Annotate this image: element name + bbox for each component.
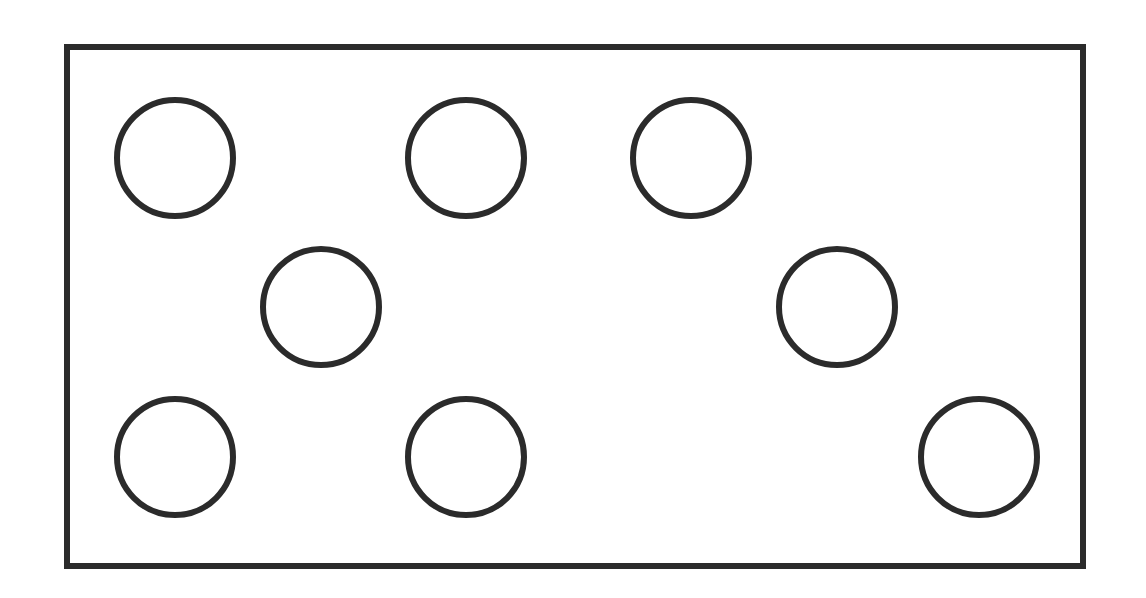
circle-shape [405,97,527,219]
circle-shape [114,97,236,219]
circle-shape [114,396,236,518]
circle-shape [918,396,1040,518]
circle-shape [405,396,527,518]
circle-shape [776,246,898,368]
circle-shape [260,246,382,368]
circle-shape [630,97,752,219]
